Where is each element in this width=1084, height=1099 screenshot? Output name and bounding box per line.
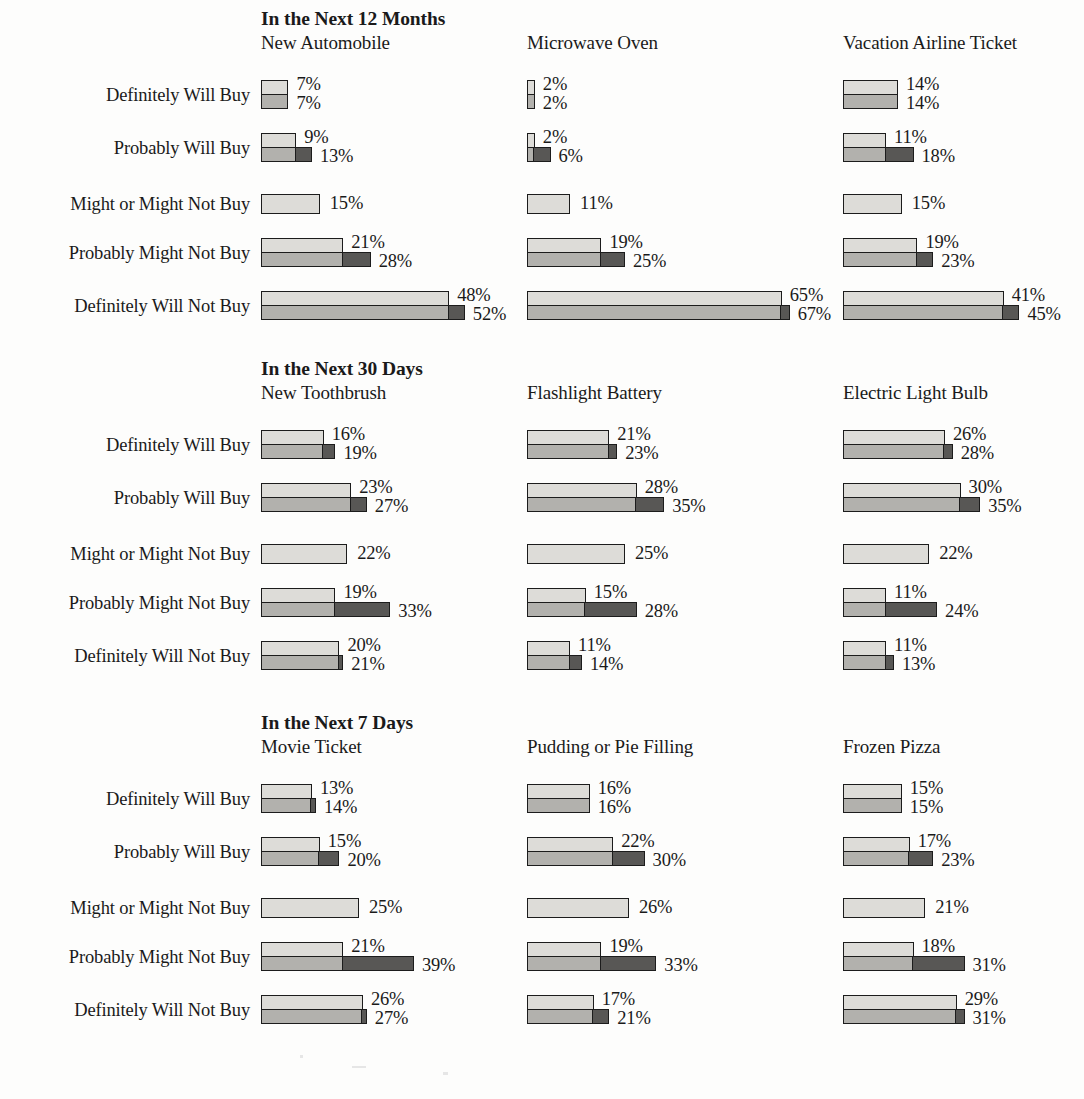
bar-actual-base [843,956,914,971]
bar-stated-intent [527,837,613,852]
bar-actual-extension [338,655,344,670]
bar-actual-base [261,655,339,670]
bar-actual-extension [912,956,965,971]
bar-actual-base [843,851,910,866]
bar-value-label: 48% [457,285,490,306]
row-label: Definitely Will Buy [0,85,250,106]
bar-stated-intent [261,641,339,656]
bar-actual-extension [955,1009,964,1024]
bar-value-label: 21% [617,424,650,445]
row-label: Might or Might Not Buy [0,194,250,215]
bar-value-label: 11% [580,193,613,214]
bar-value-label: 26% [953,424,986,445]
bar-actual-base [261,798,312,813]
bar-value-label: 41% [1012,285,1045,306]
bar-value-label: 2% [543,74,567,95]
bar-value-label: 25% [633,251,666,272]
bar-actual-extension [943,444,952,459]
bar-value-label: 24% [945,601,978,622]
row-label: Definitely Will Not Buy [0,296,250,317]
bar-value-label: 23% [359,477,392,498]
bar-stated-intent [843,430,945,445]
bar-value-label: 26% [639,897,672,918]
bar-actual-base [261,956,343,971]
bar-value-label: 11% [894,582,927,603]
bar-stated-intent [261,995,363,1010]
bar-actual-extension [342,252,371,267]
bar-value-label: 27% [375,1008,408,1029]
bar-value-label: 19% [609,936,642,957]
bar-value-label: 25% [635,543,668,564]
row-label: Probably Will Buy [0,488,250,509]
bar-value-label: 11% [894,127,927,148]
bar-actual-base [261,851,320,866]
bar-value-label: 7% [296,74,320,95]
bar-actual-base [843,602,886,617]
bar-actual-extension [342,956,414,971]
bar-stated-intent [843,133,886,148]
bar-value-label: 6% [559,146,583,167]
bar-stated-intent [261,80,288,95]
bar-stated-intent [843,238,917,253]
bar-actual-extension [885,655,894,670]
bar-value-label: 14% [906,93,939,114]
bar-stated-intent [261,483,351,498]
column-title: New Toothbrush [261,382,386,404]
bar-stated-intent [527,544,625,564]
bar-stated-intent [843,544,929,564]
bar-value-label: 39% [422,955,455,976]
bar-stated-intent [527,483,637,498]
bar-actual-extension [885,602,938,617]
column-title: Vacation Airline Ticket [843,32,1017,54]
row-label: Definitely Will Not Buy [0,646,250,667]
section-title: In the Next 12 Months [261,8,445,30]
bar-actual-extension [322,444,335,459]
bar-value-label: 2% [543,127,567,148]
column-title: Electric Light Bulb [843,382,988,404]
bar-value-label: 18% [922,936,955,957]
bar-value-label: 19% [609,232,642,253]
bar-value-label: 28% [645,601,678,622]
bar-value-label: 20% [347,850,380,871]
section-title: In the Next 30 Days [261,358,423,380]
bar-actual-base [261,305,449,320]
bar-value-label: 45% [1027,304,1060,325]
column-title: Flashlight Battery [527,382,662,404]
bar-actual-base [261,94,288,109]
bar-value-label: 65% [790,285,823,306]
bar-actual-base [843,798,902,813]
bar-actual-base [527,1009,594,1024]
bar-value-label: 13% [320,146,353,167]
bar-actual-base [261,444,324,459]
bar-actual-base [843,252,917,267]
bar-stated-intent [843,291,1004,306]
bar-value-label: 33% [664,955,697,976]
bar-actual-base [261,147,296,162]
bar-actual-base [261,1009,363,1024]
bar-actual-base [527,497,637,512]
bar-stated-intent [261,194,320,214]
bar-stated-intent [261,291,449,306]
bar-stated-intent [261,544,347,564]
row-label: Probably Might Not Buy [0,243,250,264]
bar-value-label: 2% [543,93,567,114]
scan-artifact [300,1055,303,1058]
bar-actual-base [527,851,613,866]
bar-value-label: 15% [594,582,627,603]
bar-stated-intent [527,784,590,799]
bar-value-label: 16% [332,424,365,445]
bar-stated-intent [527,133,535,148]
bar-stated-intent [527,995,594,1010]
bar-actual-extension [592,1009,609,1024]
bar-value-label: 15% [912,193,945,214]
bar-value-label: 11% [894,635,927,656]
bar-stated-intent [261,784,312,799]
bar-actual-base [843,655,886,670]
bar-value-label: 9% [304,127,328,148]
bar-stated-intent [527,430,609,445]
bar-actual-base [261,497,351,512]
bar-actual-base [527,798,590,813]
bar-value-label: 33% [398,601,431,622]
bar-actual-extension [959,497,980,512]
bar-value-label: 21% [617,1008,650,1029]
